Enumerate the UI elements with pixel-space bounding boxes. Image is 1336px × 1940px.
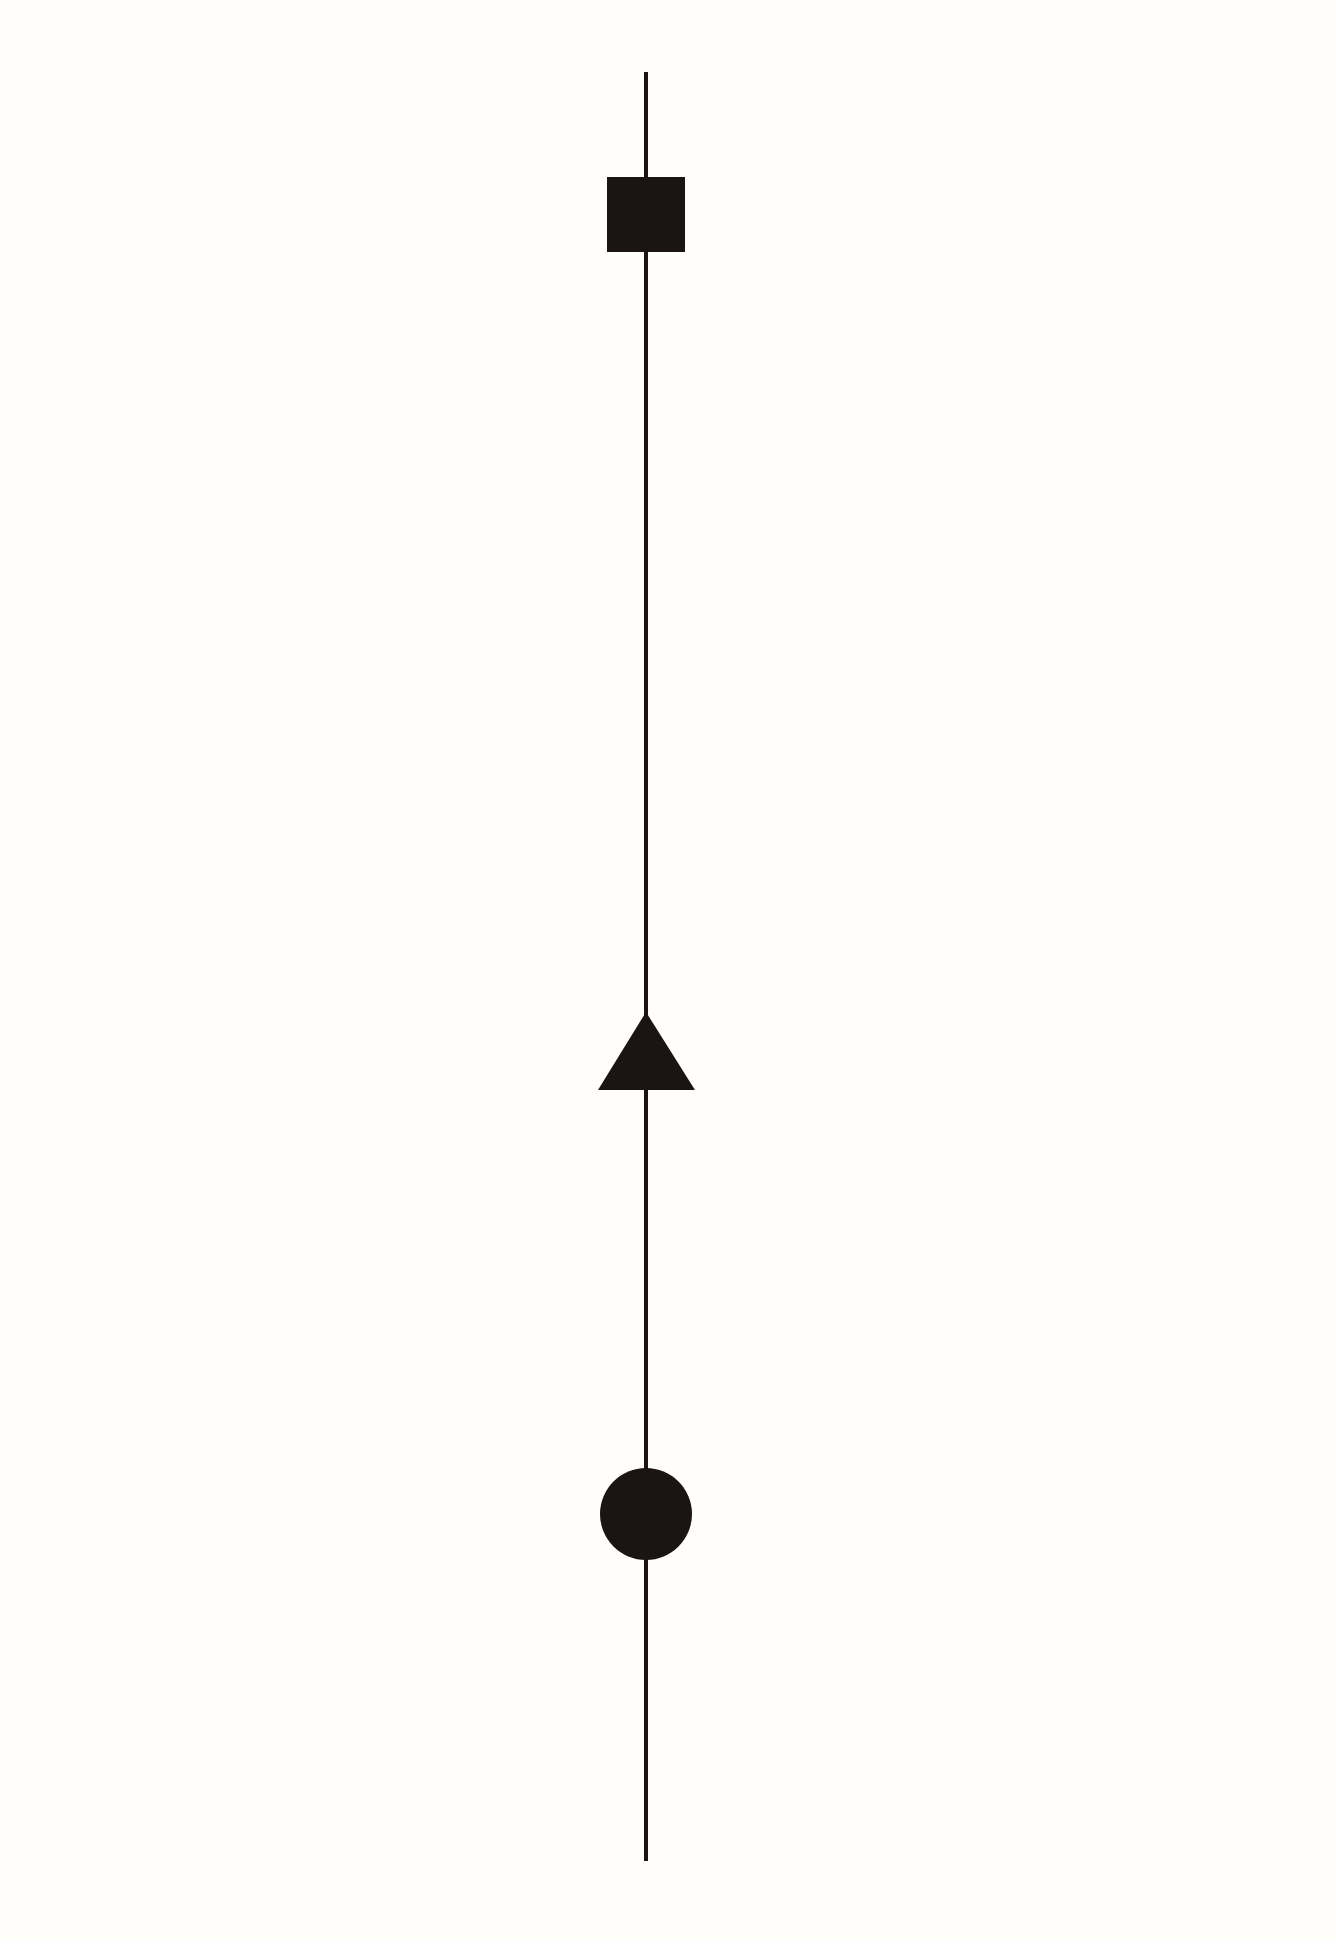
square-shape — [607, 177, 685, 252]
composition-canvas — [0, 0, 1336, 1940]
circle-shape — [600, 1468, 692, 1560]
background — [0, 0, 1336, 1940]
